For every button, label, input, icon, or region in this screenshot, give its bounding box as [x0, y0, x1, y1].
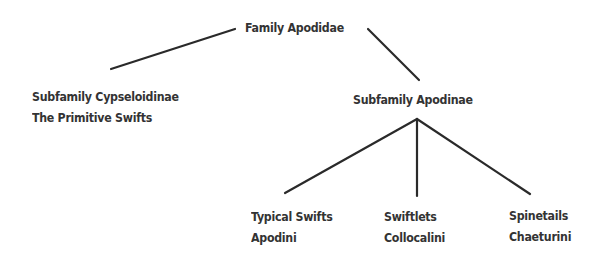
node-tribe-collocalini: Swiftlets Collocalini — [384, 207, 445, 249]
node-subfamily-cypseloidinae: Subfamily Cypseloidinae The Primitive Sw… — [32, 87, 179, 129]
node-subfamily-apodinae: Subfamily Apodinae — [353, 90, 473, 111]
edge-root-to-apodinae — [368, 29, 419, 80]
node-label: Subfamily Apodinae — [353, 90, 473, 111]
node-sublabel: Collocalini — [384, 228, 445, 249]
node-tribe-apodini: Typical Swifts Apodini — [251, 207, 332, 249]
edge-apodinae-to-chaeturini — [417, 119, 530, 194]
node-label: Typical Swifts — [251, 207, 332, 228]
node-label: Spinetails — [509, 206, 571, 227]
node-sublabel: Apodini — [251, 228, 332, 249]
node-label: Subfamily Cypseloidinae — [32, 87, 179, 108]
edge-root-to-cypseloidinae — [111, 29, 235, 69]
node-tribe-chaeturini: Spinetails Chaeturini — [509, 206, 571, 248]
node-sublabel: Chaeturini — [509, 227, 571, 248]
taxonomy-diagram: Family Apodidae Subfamily Cypseloidinae … — [0, 0, 608, 271]
node-label: Swiftlets — [384, 207, 445, 228]
node-sublabel: The Primitive Swifts — [32, 108, 179, 129]
node-label: Family Apodidae — [245, 18, 344, 39]
node-family-apodidae: Family Apodidae — [245, 18, 344, 39]
edge-apodinae-to-apodini — [285, 119, 417, 193]
